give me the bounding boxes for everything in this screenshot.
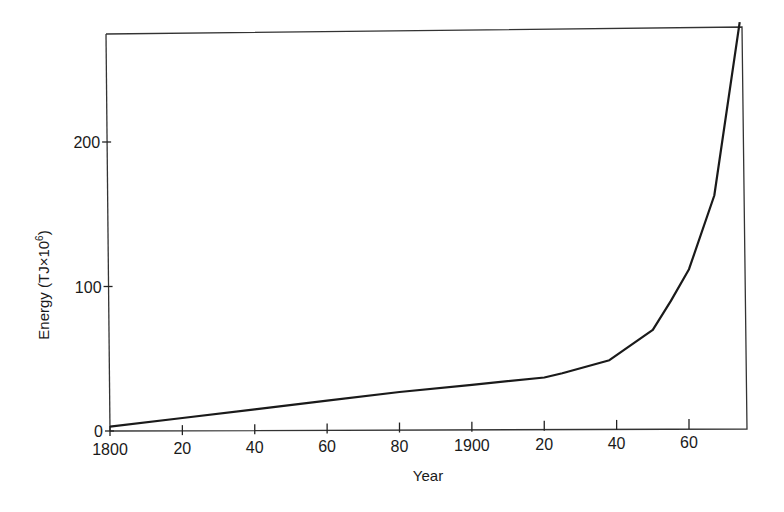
x-tick-label: 20 [173,440,191,457]
y-axis-line [106,34,110,431]
y-tick-label: 100 [75,279,102,296]
x-axis-title: Year [413,467,443,484]
data-series [110,22,740,427]
energy-line-chart: 1800204060801900204060 0100200 Year Ener… [0,0,784,512]
x-axis: 1800204060801900204060 [92,419,698,458]
x-tick-label: 1900 [454,437,490,454]
y-tick-label: 0 [94,423,103,440]
plot-border [106,27,747,431]
x-tick-label: 40 [608,435,626,452]
x-tick-label: 40 [246,439,264,456]
x-tick-label: 20 [535,436,553,453]
x-tick-label: 1800 [92,441,128,458]
energy-line [110,22,740,427]
x-tick-label: 80 [391,438,409,455]
x-tick-label: 60 [680,434,698,451]
y-axis-title: Energy (TJ×106) [34,230,52,339]
y-axis-title-close: ) [35,230,52,235]
x-tick-label: 60 [318,438,336,455]
y-axis-title-main: Energy (TJ×10 [35,241,52,340]
plot-frame [106,27,747,431]
y-tick-label: 200 [73,134,100,151]
